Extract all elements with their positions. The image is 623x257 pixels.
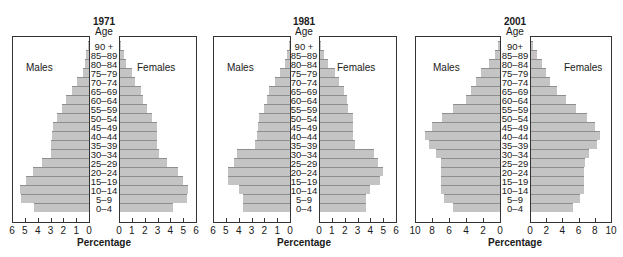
female-bar (531, 77, 550, 86)
age-group-label: 5–9 (498, 195, 532, 204)
female-axis-tick (530, 218, 531, 222)
age-group-label: 50–54 (498, 114, 532, 123)
male-bar (436, 149, 500, 158)
female-bar (531, 68, 546, 77)
female-axis-tick (546, 218, 547, 222)
female-axis-tick (611, 218, 612, 222)
male-bar (441, 158, 500, 167)
female-bar (531, 59, 542, 68)
male-tick-label: 6 (441, 225, 457, 236)
age-axis-header: Age (495, 26, 535, 37)
male-bar (425, 131, 500, 140)
female-bar (531, 86, 557, 95)
age-group-label: 70–74 (498, 78, 532, 87)
age-group-label: 90+ (498, 42, 532, 51)
male-tick-label: 4 (458, 225, 474, 236)
female-axis-tick (562, 218, 563, 222)
male-tick-label: 2 (475, 225, 491, 236)
male-bar (444, 194, 500, 203)
age-group-label: 15–19 (498, 177, 532, 186)
age-group-label: 40–44 (498, 132, 532, 141)
male-bar (453, 104, 500, 113)
male-bar (441, 167, 501, 176)
age-group-label: 55–59 (498, 105, 532, 114)
female-tick-label: 6 (571, 225, 587, 236)
female-bar (531, 194, 580, 203)
female-bar (531, 113, 587, 122)
female-bar (531, 149, 589, 158)
age-group-label: 75–79 (498, 69, 532, 78)
male-axis-tick (483, 218, 484, 222)
female-bar (531, 158, 585, 167)
male-bar (466, 95, 500, 104)
male-bar (442, 113, 500, 122)
male-axis-tick (449, 218, 450, 222)
female-axis-tick (595, 218, 596, 222)
male-bar (453, 203, 500, 212)
female-bar (531, 176, 584, 185)
age-group-label: 85–89 (498, 51, 532, 60)
females-label: Females (564, 62, 602, 73)
female-tick-label: 0 (522, 225, 538, 236)
male-tick-label: 8 (424, 225, 440, 236)
female-bar (531, 140, 597, 149)
female-bar (531, 185, 584, 194)
male-axis-tick (432, 218, 433, 222)
male-bar (471, 86, 500, 95)
age-group-label: 25–29 (498, 159, 532, 168)
female-tick-label: 8 (587, 225, 603, 236)
age-group-label: 30–34 (498, 150, 532, 159)
pyramid-chart-2001: 2001AgeMalesFemales0–45–910–1415–1920–24… (0, 0, 623, 257)
male-bar (476, 77, 500, 86)
male-tick-label: 10 (407, 225, 423, 236)
female-tick-label: 4 (554, 225, 570, 236)
male-bar (441, 185, 501, 194)
age-group-label: 10–14 (498, 186, 532, 195)
male-axis-tick (415, 218, 416, 222)
female-bar (531, 131, 600, 140)
males-label: Males (433, 62, 460, 73)
female-axis-tick (579, 218, 580, 222)
female-bar (531, 203, 573, 212)
age-group-label: 35–39 (498, 141, 532, 150)
female-bar (531, 167, 584, 176)
female-tick-label: 2 (538, 225, 554, 236)
age-group-label: 20–24 (498, 168, 532, 177)
x-axis-label: Percentage (475, 237, 555, 248)
age-group-label: 0–4 (498, 204, 532, 213)
female-bar (531, 95, 566, 104)
age-group-label: 45–49 (498, 123, 532, 132)
female-tick-label: 10 (603, 225, 619, 236)
male-bar (429, 140, 500, 149)
age-group-label: 65–69 (498, 87, 532, 96)
female-bar (531, 122, 595, 131)
male-axis-tick (500, 218, 501, 222)
age-group-label: 80–84 (498, 60, 532, 69)
female-bar (531, 104, 576, 113)
age-group-label: 60–64 (498, 96, 532, 105)
male-tick-label: 0 (492, 225, 508, 236)
male-bar (441, 176, 500, 185)
male-axis-tick (466, 218, 467, 222)
male-bar (432, 122, 500, 131)
